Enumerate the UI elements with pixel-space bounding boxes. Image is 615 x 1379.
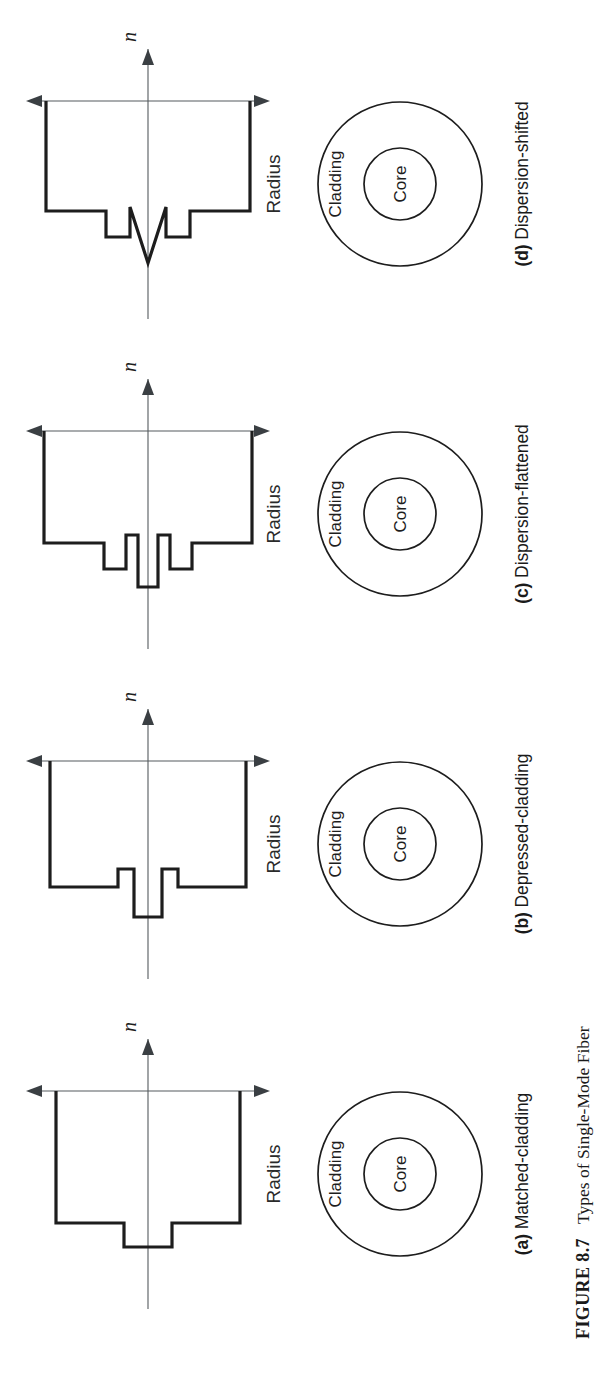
panel-name-a: Matched-cladding xyxy=(512,1093,532,1230)
panel-tag-b: (b) xyxy=(512,912,532,934)
core-label-d: Core xyxy=(391,166,410,203)
cross-section-d: Cladding Core xyxy=(300,19,505,349)
figure-number: FIGURE 8.7 xyxy=(573,1238,593,1339)
core-label-a: Core xyxy=(391,1156,410,1193)
index-profile-d: n Radius xyxy=(8,19,288,349)
radius-axis-b xyxy=(142,709,154,979)
panel-tag-c: (c) xyxy=(512,583,532,604)
panel-label-c: (c) Dispersion-flattened xyxy=(512,349,533,679)
axis-label-n-d: n xyxy=(118,32,140,42)
panel-label-b: (b) Depressed-cladding xyxy=(512,679,533,1009)
cladding-label-c: Cladding xyxy=(326,480,345,547)
radius-axis-d xyxy=(142,49,154,319)
figure-stage: n Radius Cladding Core (a) Matched-cladd… xyxy=(0,0,615,1379)
cladding-label-d: Cladding xyxy=(326,150,345,217)
figure-caption-text: Types of Single-Mode Fiber xyxy=(573,1026,593,1238)
cross-section-c: Cladding Core xyxy=(300,349,505,679)
panel-dispersion-shifted: n Radius Cladding Core (d) Dispersion-sh… xyxy=(0,19,560,349)
cross-section-b: Cladding Core xyxy=(300,679,505,1009)
axis-label-radius-a: Radius xyxy=(263,1144,284,1203)
core-label-c: Core xyxy=(391,496,410,533)
cladding-label-a: Cladding xyxy=(326,1140,345,1207)
axis-label-n-c: n xyxy=(118,362,140,372)
cladding-label-b: Cladding xyxy=(326,810,345,877)
axis-label-n-b: n xyxy=(118,692,140,702)
core-label-b: Core xyxy=(391,826,410,863)
panel-tag-d: (d) xyxy=(512,245,532,267)
radius-axis-a xyxy=(142,1039,154,1309)
cross-section-a: Cladding Core xyxy=(300,1009,505,1339)
panel-tag-a: (a) xyxy=(512,1234,532,1255)
index-profile-c: n Radius xyxy=(8,349,288,679)
panel-name-c: Dispersion-flattened xyxy=(512,424,532,578)
panel-depressed-cladding: n Radius Cladding Core (b) Depressed-cla… xyxy=(0,679,560,1009)
figure-caption: FIGURE 8.7Types of Single-Mode Fiber xyxy=(573,1026,594,1339)
axis-label-radius-b: Radius xyxy=(263,814,284,873)
panel-label-d: (d) Dispersion-shifted xyxy=(512,19,533,349)
axis-label-n-a: n xyxy=(118,1022,140,1032)
panel-name-b: Depressed-cladding xyxy=(512,754,532,908)
index-profile-b: n Radius xyxy=(8,679,288,1009)
panel-matched-cladding: n Radius Cladding Core (a) Matched-cladd… xyxy=(0,1009,560,1339)
panel-label-a: (a) Matched-cladding xyxy=(512,1009,533,1339)
index-profile-a: n Radius xyxy=(8,1009,288,1339)
panels-row: n Radius Cladding Core (a) Matched-cladd… xyxy=(0,0,615,1379)
axis-label-radius-d: Radius xyxy=(263,154,284,213)
panel-name-d: Dispersion-shifted xyxy=(512,101,532,239)
axis-label-radius-c: Radius xyxy=(263,484,284,543)
radius-axis-c xyxy=(142,379,154,649)
panel-dispersion-flattened: n Radius Cladding Core (c) Dispersion-fl… xyxy=(0,349,560,679)
